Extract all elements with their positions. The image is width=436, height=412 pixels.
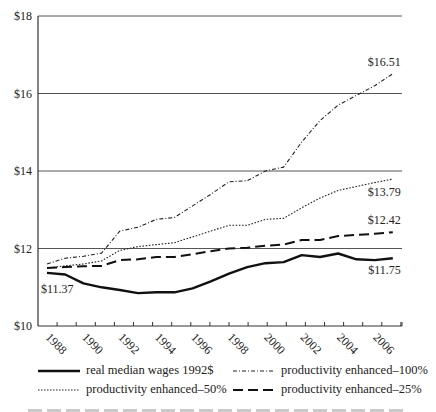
y-tick-label: $10 xyxy=(14,319,32,333)
legend-label: productivity enhanced–25% xyxy=(281,382,422,397)
legend-item-productivity-50: productivity enhanced–50% xyxy=(38,382,227,397)
value-annotation: $12.42 xyxy=(368,213,401,227)
dotted-line-swatch-icon xyxy=(38,386,80,394)
solid-line-swatch-icon xyxy=(38,367,80,375)
dash-dot-line-swatch-icon xyxy=(233,367,275,375)
legend-item-productivity-25: productivity enhanced–25% xyxy=(233,382,422,397)
gridlines xyxy=(38,16,402,249)
x-tick-label: 1988 xyxy=(43,330,70,357)
x-tick-label: 1996 xyxy=(188,330,215,357)
x-tick-label: 1994 xyxy=(152,330,179,357)
long-dash-line-swatch-icon xyxy=(233,386,275,394)
legend-label: productivity enhanced–50% xyxy=(86,382,227,397)
legend-item-productivity-100: productivity enhanced–100% xyxy=(233,363,428,378)
x-tick-label: 1998 xyxy=(225,330,252,357)
value-annotation: $16.51 xyxy=(368,55,401,69)
legend-label: productivity enhanced–100% xyxy=(281,363,428,378)
value-annotation: $13.79 xyxy=(368,185,401,199)
value-annotation: $11.75 xyxy=(368,263,401,277)
y-tick-label: $14 xyxy=(14,164,32,178)
annotations: $11.37$11.75$16.51$13.79$12.42 xyxy=(41,55,401,296)
y-tick-label: $12 xyxy=(14,242,32,256)
series-productivity-100 xyxy=(47,74,393,264)
x-tick-label: 2000 xyxy=(261,330,288,357)
x-axis-ticks: 1988199019921994199619982000200220042006 xyxy=(43,322,402,357)
legend-label: real median wages 1992$ xyxy=(86,363,213,378)
series-real-median-wages xyxy=(47,254,393,294)
legend-item-wages: real median wages 1992$ xyxy=(38,363,213,378)
x-tick-label: 1990 xyxy=(79,330,106,357)
clipped-caption-text xyxy=(0,404,436,412)
value-annotation: $11.37 xyxy=(41,282,74,296)
x-tick-label: 2006 xyxy=(370,330,397,357)
x-tick-label: 2002 xyxy=(298,330,325,357)
y-axis-ticks: $10$12$14$16$18 xyxy=(14,9,32,333)
series-productivity-25 xyxy=(47,232,393,268)
line-chart: $10$12$14$16$18 198819901992199419961998… xyxy=(0,0,436,360)
x-tick-label: 2004 xyxy=(334,330,361,357)
y-tick-label: $18 xyxy=(14,9,32,23)
series-lines xyxy=(47,74,393,293)
x-tick-label: 1992 xyxy=(116,330,143,357)
y-tick-label: $16 xyxy=(14,87,32,101)
